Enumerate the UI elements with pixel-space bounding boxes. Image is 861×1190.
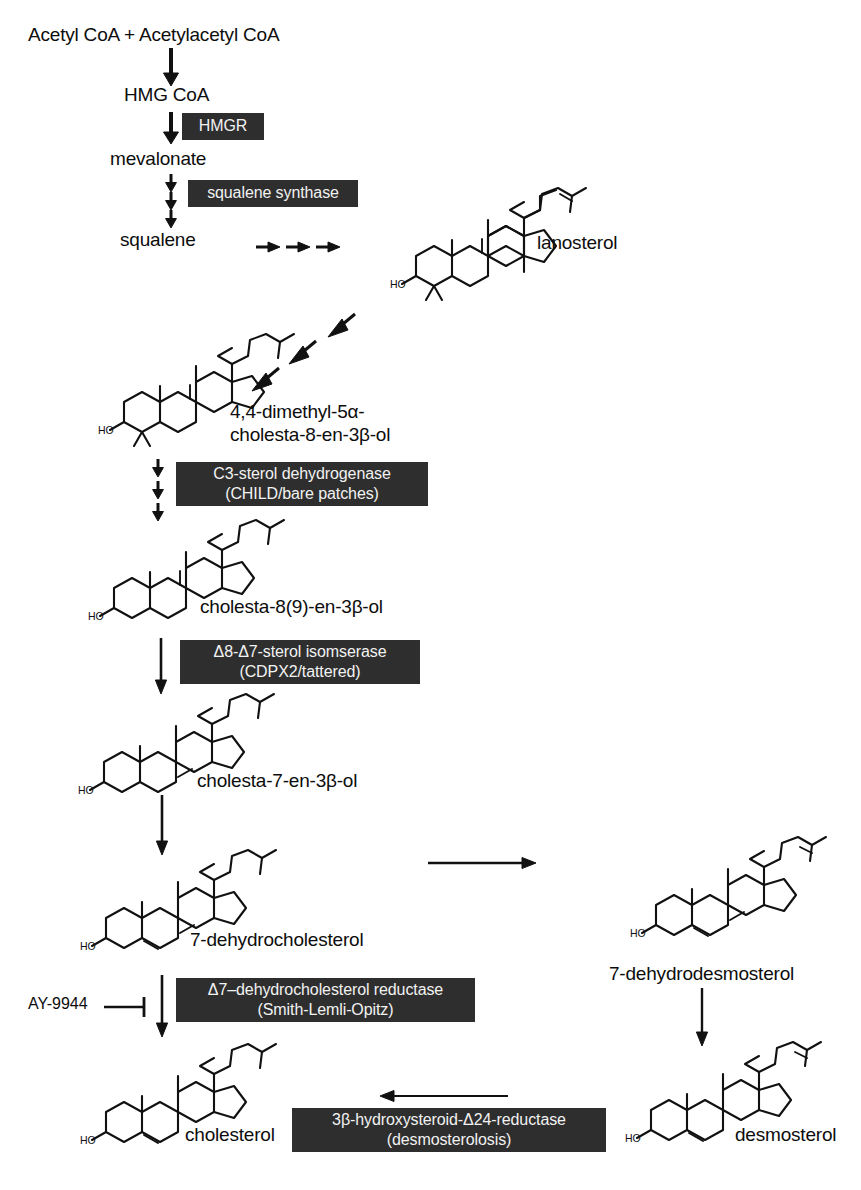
arrow-mevalonate-step-2 (163, 192, 179, 210)
enzyme-label-squalene-synthase: squalene synthase (207, 184, 339, 201)
metabolite-acetyl-coa: Acetyl CoA + Acetylacetyl CoA (28, 24, 279, 45)
enzyme-label-hydroxysteroid-reductase-line1: 3β-hydroxysteroid-Δ24-reductase (300, 1110, 598, 1130)
metabolite-7-dehydrocholesterol: 7-dehydrocholesterol (190, 929, 363, 950)
metabolite-hmg-coa: HMG CoA (124, 84, 209, 105)
cholesta7-structure: HO (78, 712, 278, 812)
arrow-desmosterol-to-cholesterol (380, 1088, 508, 1104)
pathway-diagram: Acetyl CoA + Acetylacetyl CoA HMG CoA HM… (0, 0, 861, 1190)
enzyme-box-hydroxysteroid-reductase: 3β-hydroxysteroid-Δ24-reductase (desmost… (292, 1108, 606, 1152)
enzyme-label-c3-sterol-dehydrogenase-line2: (CHILD/bare patches) (184, 484, 420, 504)
enzyme-box-squalene-synthase: squalene synthase (188, 180, 358, 207)
metabolite-dimethyl-cholesta: 4,4-dimethyl-5α- cholesta-8-en-3β-ol (230, 400, 430, 446)
arrow-squalene-to-lanosterol-2 (286, 240, 310, 254)
arrow-dimethyl-step-3 (150, 503, 166, 521)
enzyme-box-hmgr: HMGR (182, 113, 264, 140)
arrow-dhc-to-cholesterol (153, 975, 171, 1037)
arrow-squalene-to-lanosterol-1 (256, 240, 280, 254)
metabolite-dimethyl-line2: cholesta-8-en-3β-ol (230, 424, 390, 445)
cholesterol-structure: HO (80, 1062, 280, 1162)
enzyme-label-dhc-reductase-line1: Δ7–dehydrocholesterol reductase (184, 980, 467, 1000)
arrow-mevalonate-step-3 (163, 210, 179, 228)
enzyme-box-dhc-reductase: Δ7–dehydrocholesterol reductase (Smith-L… (176, 978, 475, 1022)
metabolite-mevalonate: mevalonate (110, 148, 206, 169)
lanosterol-hydroxyl-label: HO (390, 278, 406, 290)
metabolite-squalene: squalene (120, 229, 196, 250)
enzyme-label-hmgr: HMGR (199, 117, 247, 134)
metabolite-dimethyl-line1: 4,4-dimethyl-5α- (230, 401, 365, 422)
cholesta89-hydroxyl-label: HO (88, 610, 104, 622)
arrow-dimethyl-step-1 (150, 459, 166, 477)
enzyme-box-sterol-isomerase: Δ8-Δ7-sterol isomserase (CDPX2/tattered) (180, 640, 420, 684)
arrow-acetyl-to-hmgcoa (160, 48, 182, 86)
inhibitor-ay-9944-label: AY-9944 (28, 995, 88, 1013)
arrow-dhdesmosterol-to-desmosterol (693, 988, 711, 1046)
enzyme-label-sterol-isomerase-line1: Δ8-Δ7-sterol isomserase (188, 642, 412, 662)
arrow-hmgcoa-to-mevalonate (160, 112, 182, 144)
metabolite-cholesta-7-en: cholesta-7-en-3β-ol (197, 770, 357, 791)
enzyme-label-sterol-isomerase-line2: (CDPX2/tattered) (188, 662, 412, 682)
cholesta89-structure: HO (88, 538, 288, 638)
enzyme-label-c3-sterol-dehydrogenase-line1: C3-sterol dehydrogenase (184, 464, 420, 484)
inhibitor-bar-ay-9944 (104, 994, 150, 1020)
dimethyl-hydroxyl-label: HO (98, 424, 114, 436)
dhc-hydroxyl-label: HO (80, 940, 96, 952)
dhdesmosterol-hydroxyl-label: HO (630, 927, 646, 939)
desmosterol-hydroxyl-label: HO (625, 1132, 641, 1144)
arrow-dimethyl-step-2 (150, 481, 166, 499)
cholesterol-hydroxyl-label: HO (80, 1134, 96, 1146)
arrow-cholesta7-to-dhc (153, 795, 171, 855)
metabolite-7-dehydrodesmosterol: 7-dehydrodesmosterol (609, 963, 794, 984)
metabolite-desmosterol: desmosterol (735, 1124, 836, 1145)
enzyme-label-hydroxysteroid-reductase-line2: (desmosterolosis) (300, 1130, 598, 1150)
dhc-structure: HO (80, 868, 280, 968)
enzyme-box-c3-sterol-dehydrogenase: C3-sterol dehydrogenase (CHILD/bare patc… (176, 462, 428, 506)
metabolite-cholesterol: cholesterol (185, 1124, 275, 1145)
dhdesmosterol-structure: HO (630, 855, 820, 955)
metabolite-lanosterol: lanosterol (537, 232, 617, 253)
arrow-dhc-to-dhdesmosterol (428, 855, 536, 871)
arrow-mevalonate-step-1 (163, 174, 179, 192)
metabolite-cholesta-8-9: cholesta-8(9)-en-3β-ol (200, 596, 383, 617)
enzyme-label-dhc-reductase-line2: (Smith-Lemli-Opitz) (184, 1000, 467, 1020)
cholesta7-hydroxyl-label: HO (78, 784, 94, 796)
arrow-lanosterol-to-dimethyl-1 (328, 313, 356, 337)
arrow-cholesta89-to-cholesta7 (152, 638, 170, 694)
arrow-squalene-to-lanosterol-3 (316, 240, 340, 254)
